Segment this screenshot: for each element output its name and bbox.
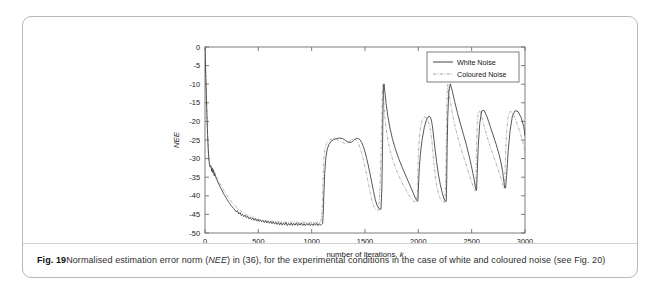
caption-segment-1: Normalised estimation error norm (	[66, 255, 208, 265]
y-tick-label: -45	[189, 210, 200, 219]
figure-number: Fig. 19	[37, 255, 66, 265]
y-tick-label: -20	[189, 117, 200, 126]
chart-plot-area: 0500100015002000250030000-5-10-15-20-25-…	[133, 21, 533, 261]
caption-italic-nee: NEE	[208, 255, 227, 265]
y-tick-label: -15	[189, 98, 200, 107]
y-axis-title: NEE	[172, 131, 181, 148]
y-tick-label: -25	[189, 136, 200, 145]
figure-caption-bar: Fig. 19Normalised estimation error norm …	[23, 243, 637, 277]
y-tick-label: -40	[189, 191, 200, 200]
y-tick-label: -5	[193, 61, 200, 70]
y-tick-label: -50	[189, 229, 200, 238]
caption-segment-2: ) in (36), for the experimental conditio…	[227, 255, 605, 265]
y-tick-label: -35	[189, 173, 200, 182]
figure-caption-text: Fig. 19Normalised estimation error norm …	[37, 255, 605, 266]
y-tick-label: -10	[189, 80, 200, 89]
y-tick-label: 0	[196, 43, 200, 52]
y-tick-label: -30	[189, 154, 200, 163]
legend-label-coloured-noise: Coloured Noise	[457, 70, 507, 79]
legend-label-white-noise: White Noise	[457, 58, 496, 67]
figure-card: 0500100015002000250030000-5-10-15-20-25-…	[22, 16, 638, 278]
nee-line-chart: 0500100015002000250030000-5-10-15-20-25-…	[133, 21, 533, 261]
